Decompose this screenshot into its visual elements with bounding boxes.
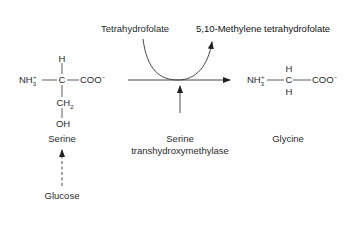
- serine-alpha-carbon: C: [59, 75, 66, 85]
- cofactor-out-label: 5,10-Methylene tetrahydrofolate: [196, 24, 330, 34]
- glycine-top-h: H: [286, 64, 293, 74]
- glycine-amine: NH3+: [247, 75, 265, 85]
- serine-carboxyl: COO−: [80, 75, 105, 85]
- enzyme-label-line1: Serine: [166, 134, 193, 144]
- cofactor-arc-arrow: [143, 39, 212, 80]
- serine-ch2: CH2: [56, 98, 73, 108]
- serine-amine: NH3+: [19, 75, 37, 85]
- glycine-label: Glycine: [272, 134, 304, 144]
- enzyme-label-line2: transhydroxymethylase: [131, 146, 229, 156]
- cofactor-in-label: Tetrahydrofolate: [101, 24, 169, 34]
- glycine-carboxyl: COO−: [312, 75, 337, 85]
- serine-oh: OH: [56, 119, 70, 129]
- glycine-bottom-h: H: [286, 87, 293, 97]
- glucose-label: Glucose: [45, 191, 80, 201]
- serine-label: Serine: [48, 134, 75, 144]
- serine-top-h: H: [59, 54, 66, 64]
- glycine-alpha-carbon: C: [286, 75, 293, 85]
